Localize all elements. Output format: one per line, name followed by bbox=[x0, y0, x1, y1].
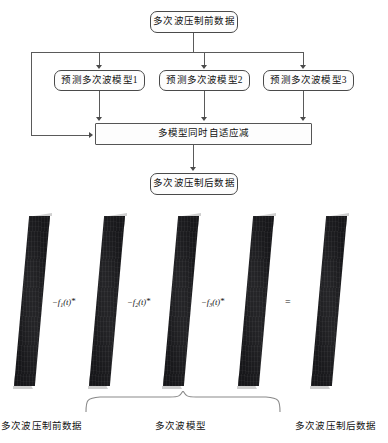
operator-minus-f3: −f3(t)* bbox=[201, 296, 225, 308]
caption-output-gather: 多次波压制后数据 bbox=[295, 418, 377, 432]
group-brace bbox=[84, 391, 282, 413]
connector-bus bbox=[31, 52, 303, 53]
conv-star-3: * bbox=[220, 296, 225, 306]
arrowhead-model-2 bbox=[201, 65, 207, 69]
flow-box-model-3: 预测多次波模型3 bbox=[263, 70, 354, 91]
flow-box-model-2-label: 预测多次波模型2 bbox=[166, 76, 242, 86]
connector-input-to-bus bbox=[193, 33, 194, 52]
connector-bypass-vertical bbox=[31, 52, 32, 135]
flow-box-model-2: 预测多次波模型2 bbox=[159, 70, 250, 91]
flow-box-model-1: 预测多次波模型1 bbox=[54, 70, 145, 91]
flow-box-output-label: 多次波压制后数据 bbox=[153, 179, 235, 189]
func-arg-1: (t) bbox=[63, 297, 71, 307]
caption-multiple-model-text: 多次波模型 bbox=[155, 421, 206, 431]
arrowhead-combine-2 bbox=[201, 117, 207, 121]
flow-box-combine-label: 多模型同时自适应减 bbox=[158, 129, 250, 139]
func-arg-2: (t) bbox=[138, 297, 146, 307]
arrowhead-model-1 bbox=[96, 65, 102, 69]
flow-box-input: 多次波压制前数据 bbox=[150, 11, 238, 33]
flow-box-model-1-label: 预测多次波模型1 bbox=[61, 76, 137, 86]
figure-canvas: 多次波压制前数据 预测多次波模型1 预测多次波模型2 预测多次波模型3 bbox=[0, 0, 388, 443]
func-arg-3: (t) bbox=[212, 297, 220, 307]
connector-model-1-to-combine bbox=[99, 91, 100, 118]
connector-bus-to-model-2 bbox=[204, 52, 205, 66]
equals-sign: = bbox=[285, 296, 291, 307]
arrowhead-bypass bbox=[89, 132, 93, 138]
arrowhead-combine-3 bbox=[300, 117, 306, 121]
arrowhead-model-3 bbox=[300, 65, 306, 69]
caption-input-gather-text: 多次波压制前数据 bbox=[1, 421, 83, 431]
connector-combine-to-output bbox=[193, 145, 194, 168]
connector-bus-to-model-1 bbox=[99, 52, 100, 66]
connector-bus-to-model-3 bbox=[303, 52, 304, 66]
conv-star-2: * bbox=[146, 296, 151, 306]
flow-box-output: 多次波压制后数据 bbox=[150, 173, 238, 195]
flow-box-model-3-label: 预测多次波模型3 bbox=[270, 76, 346, 86]
connector-model-3-to-combine bbox=[303, 91, 304, 118]
arrowhead-output bbox=[190, 167, 196, 171]
operator-minus-f1: −f1(t)* bbox=[52, 296, 76, 308]
connector-bypass-horizontal bbox=[31, 135, 90, 136]
caption-output-gather-text: 多次波压制后数据 bbox=[295, 421, 377, 431]
caption-multiple-model: 多次波模型 bbox=[155, 418, 206, 432]
operator-minus-f2: −f2(t)* bbox=[127, 296, 151, 308]
caption-input-gather: 多次波压制前数据 bbox=[1, 418, 83, 432]
arrowhead-combine-1 bbox=[96, 117, 102, 121]
flow-box-combine: 多模型同时自适应减 bbox=[95, 123, 312, 145]
flow-box-input-label: 多次波压制前数据 bbox=[153, 17, 235, 27]
equals-sign-glyph: = bbox=[285, 296, 291, 307]
conv-star-1: * bbox=[71, 296, 76, 306]
connector-model-2-to-combine bbox=[204, 91, 205, 118]
